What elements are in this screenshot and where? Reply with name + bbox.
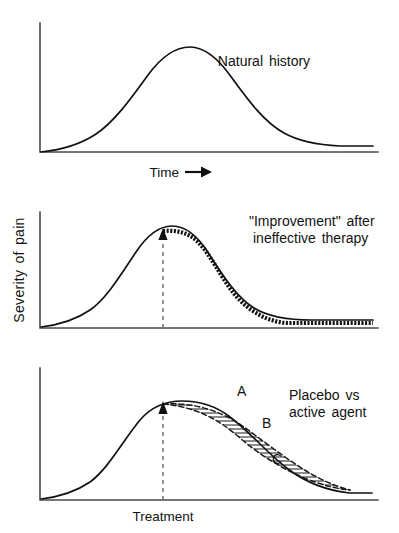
panel3-annotation-line2: active agent [289, 404, 367, 420]
panel3-x-axis-label: Treatment [132, 509, 193, 524]
figure-canvas: Natural history Time "Improvement" after… [0, 0, 399, 533]
panel2-annotation-line2: ineffective therapy [253, 230, 368, 246]
y-axis-label: Severity of pain [11, 217, 27, 322]
panel3-label-c: C [272, 451, 282, 467]
panel-placebo-vs-active: A B C Placebo vs active agent Treatment [40, 368, 378, 524]
panel-improvement: "Improvement" after ineffective therapy [40, 212, 378, 328]
panel3-label-a: A [237, 383, 247, 399]
figure-root: Natural history Time "Improvement" after… [0, 0, 399, 533]
panel1-x-axis-label: Time [150, 165, 180, 180]
panel3-label-b: B [262, 415, 271, 431]
panel1-axes [40, 23, 378, 152]
panel2-annotation-line1: "Improvement" after [249, 213, 375, 229]
panel3-annotation-line1: Placebo vs [289, 387, 359, 403]
right-arrow-icon [185, 167, 212, 178]
panel2-treatment-arrowhead [158, 228, 167, 240]
panel-natural-history: Natural history Time [40, 23, 378, 180]
panel1-annotation: Natural history [218, 53, 310, 69]
panel1-natural-history-curve [41, 47, 373, 152]
